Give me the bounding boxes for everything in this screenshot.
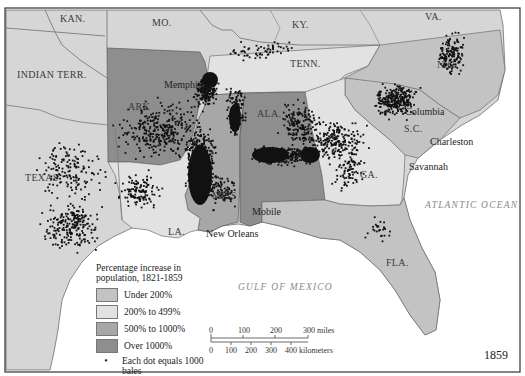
scale-km-300: 300 [265,346,277,355]
legend-label: Under 200% [124,290,172,300]
label-memphis: Memphis [164,80,202,90]
scale-km-0: 0 [209,346,213,355]
scale-mile-200: 200 [270,326,282,335]
label-indian-terr: INDIAN TERR. [17,70,87,80]
legend-item-over-1000: Over 1000% [96,338,216,353]
dot-icon: • [96,356,116,366]
swatch-500-1000 [96,322,118,336]
label-atlantic-ocean: ATLANTIC OCEAN [425,201,518,211]
label-miss: MISS [212,191,237,201]
label-savannah: Savannah [409,162,448,172]
legend-item-500-1000: 500% to 1000% [96,321,216,336]
scale-km-200: 200 [245,346,257,355]
map-canvas [0,0,525,376]
scale-km-400: 400 kilometers [285,346,333,355]
label-ark: ARK [128,102,150,112]
label-ga: GA. [360,170,378,180]
label-charleston: Charleston [430,137,473,147]
legend-label: 500% to 1000% [124,324,185,334]
legend-label: 200% to 499% [124,307,180,317]
label-va: VA. [425,12,442,22]
legend-title: Percentage increase in population, 1821-… [96,263,216,283]
scale-km-100: 100 [225,346,237,355]
label-columbia: Columbia [405,107,444,117]
scale-mile-300: 300 miles [303,326,334,335]
label-texas: TEXAS [25,173,59,183]
legend-label: Over 1000% [124,341,172,351]
scale-mile-0: 0 [209,326,213,335]
scale-bar: 0 100 200 300 miles 0 100 200 300 400 ki… [205,326,405,356]
label-ala: ALA. [257,109,281,119]
swatch-200-499 [96,305,118,319]
cotton-production-map: KAN. MO. KY. VA. INDIAN TERR. TENN. N.C.… [0,0,525,376]
map-year: 1859 [484,349,508,361]
label-sc: S.C. [404,124,422,134]
label-mo: MO. [152,18,172,28]
label-nc: N.C. [437,60,457,70]
label-kan: KAN. [60,14,85,24]
scale-mile-100: 100 [238,326,250,335]
legend-item-dot: • Each dot equals 1000 bales [96,356,216,376]
swatch-over-1000 [96,339,118,353]
label-fla: FLA. [386,258,409,268]
label-gulf-of-mexico: GULF OF MEXICO [238,283,333,293]
legend-item-under-200: Under 200% [96,287,216,302]
label-new-orleans: New Orleans [206,229,258,239]
label-mobile: Mobile [252,207,281,217]
label-la: LA. [168,227,185,237]
swatch-under-200 [96,288,118,302]
label-ky: KY. [292,20,309,30]
map-legend: Percentage increase in population, 1821-… [96,263,216,376]
label-tenn: TENN. [290,59,321,69]
legend-dot-label: Each dot equals 1000 bales [122,356,216,376]
legend-item-200-499: 200% to 499% [96,304,216,319]
